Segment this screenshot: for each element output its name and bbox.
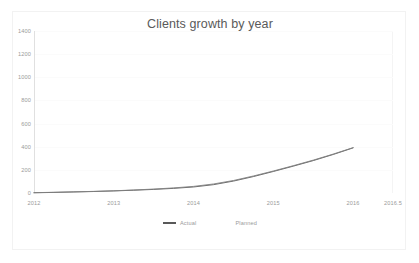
y-axis-tick-label: 600 — [21, 121, 31, 127]
y-axis-tick-label: 800 — [21, 97, 31, 103]
legend-label: Actual — [180, 220, 196, 226]
y-axis-tick-label: 1000 — [18, 74, 31, 80]
x-axis-tick-label: 2014 — [187, 200, 200, 206]
series-lines — [34, 31, 393, 193]
chart-legend: ActualPlanned — [13, 220, 407, 226]
legend-line-swatch — [163, 222, 176, 223]
plot-area — [34, 31, 393, 193]
x-axis-tick-label: 2016 — [347, 200, 360, 206]
legend-label: Planned — [235, 220, 257, 226]
y-axis-tick-labels: 1400120010008006004002000 — [13, 31, 31, 193]
x-axis-tick-label: 2012 — [27, 200, 40, 206]
chart-title: Clients growth by year — [13, 17, 407, 31]
x-axis-tick-label: 2016.5 — [384, 200, 402, 206]
y-axis-tick-label: 200 — [21, 167, 31, 173]
chart-container: Clients growth by year 14001200100080060… — [12, 11, 406, 250]
series-line-planned — [34, 148, 353, 193]
x-axis-tick-labels: 201220132014201520162016.5 — [34, 200, 393, 212]
y-axis-tick-label: 1400 — [18, 28, 31, 34]
x-axis-tick-label: 2015 — [267, 200, 280, 206]
legend-item[interactable]: Planned — [218, 220, 257, 226]
legend-item[interactable]: Actual — [163, 220, 196, 226]
x-axis-tick-label: 2013 — [107, 200, 120, 206]
y-axis-tick-label: 0 — [28, 190, 31, 196]
legend-line-swatch — [218, 222, 231, 223]
y-axis-tick-label: 1200 — [18, 51, 31, 57]
y-axis-tick-label: 400 — [21, 144, 31, 150]
